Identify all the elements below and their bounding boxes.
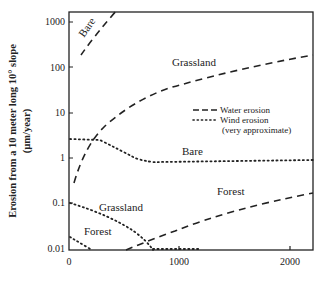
label-forest-water: Forest xyxy=(217,185,245,197)
forest-wind-curve xyxy=(70,237,92,250)
x-tick-2000: 2000 xyxy=(280,256,300,267)
grassland-water-curve xyxy=(74,55,313,183)
y-tick-0.01: 0.01 xyxy=(48,243,66,254)
y-tick-1000: 1000 xyxy=(45,16,65,27)
erosion-chart: Erosion from a 10 meter long 10° slope (… xyxy=(0,0,324,285)
x-tick-0: 0 xyxy=(67,256,72,267)
label-bare-water: Bare xyxy=(76,15,98,39)
x-tick-1000: 1000 xyxy=(169,256,189,267)
legend-water: Water erosion xyxy=(220,105,271,115)
legend-note: (very approximate) xyxy=(222,125,291,135)
y-tick-labels: 1000 100 10 1 0.1 0.01 xyxy=(45,16,65,254)
label-forest-wind: Forest xyxy=(84,225,112,237)
y-axis-title-line1: Erosion from a 10 meter long 10° slope xyxy=(7,44,18,218)
forest-water-curve xyxy=(126,193,313,250)
y-tick-10: 10 xyxy=(55,107,65,118)
y-axis-title-line2: (µm/year) xyxy=(21,108,33,153)
y-tick-1: 1 xyxy=(60,152,65,163)
legend: Water erosion Wind erosion (very approxi… xyxy=(193,105,291,135)
label-grassland-water: Grassland xyxy=(172,56,216,68)
curve-labels: Bare Grassland Bare Forest Grassland For… xyxy=(76,15,245,237)
label-bare-wind: Bare xyxy=(182,145,203,157)
x-tick-labels: 0 1000 2000 xyxy=(67,256,301,267)
label-grassland-wind: Grassland xyxy=(99,201,143,213)
legend-wind: Wind erosion xyxy=(220,115,269,125)
y-tick-0.1: 0.1 xyxy=(53,197,66,208)
y-tick-100: 100 xyxy=(50,62,65,73)
y-axis-title: Erosion from a 10 meter long 10° slope (… xyxy=(7,44,33,218)
